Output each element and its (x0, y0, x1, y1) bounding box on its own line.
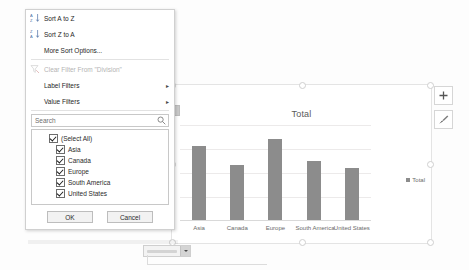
menu-button-row: OK Cancel (26, 208, 174, 229)
menu-separator (31, 110, 169, 111)
filter-checklist-item[interactable]: Canada (32, 155, 168, 166)
menu-item-label: More Sort Options... (44, 47, 169, 54)
chart-elements-button[interactable] (434, 86, 453, 105)
svg-text:A: A (30, 34, 33, 39)
sort-ascending-icon: A Z (26, 13, 44, 23)
connector-line-horizontal (147, 264, 267, 265)
filter-checklist-item[interactable]: United States (32, 188, 168, 199)
legend-label-total: Total (412, 177, 425, 183)
chart-side-buttons (434, 86, 453, 129)
resize-handle-right[interactable] (427, 161, 434, 168)
checkbox-europe[interactable] (56, 167, 65, 176)
search-icon[interactable] (157, 116, 166, 126)
category-label-europe: Europe (257, 225, 293, 231)
resize-handle-top-right[interactable] (427, 82, 434, 89)
filter-checklist-label: Canada (68, 157, 91, 164)
excel-pivotchart-canvas: Total AsiaCanadaEuropeSouth AmericaUnite… (0, 0, 469, 270)
checkbox-south-america[interactable] (56, 178, 65, 187)
menu-item-label: Sort Z to A (44, 31, 169, 38)
pivot-field-label-blurred (147, 250, 177, 253)
paintbrush-icon (438, 114, 449, 125)
search-input[interactable] (31, 114, 169, 127)
submenu-arrow-icon: ▸ (166, 98, 169, 105)
filter-checklist-label: Europe (68, 168, 89, 175)
filter-value-checklist[interactable]: (Select All)AsiaCanadaEuropeSouth Americ… (31, 129, 169, 205)
category-label-asia: Asia (181, 225, 217, 231)
chart-styles-button[interactable] (434, 110, 453, 129)
ok-button[interactable]: OK (47, 211, 93, 223)
bar-wrap (335, 125, 369, 220)
chevron-down-icon[interactable] (180, 246, 190, 256)
filter-checklist-label: Asia (68, 146, 81, 153)
clear-filter-icon (26, 64, 44, 74)
filter-checklist-label: United States (68, 190, 107, 197)
menu-item-sort-z-to-a[interactable]: Z A Sort Z to A (26, 26, 174, 42)
checkbox-united-states[interactable] (56, 189, 65, 198)
menu-item-clear-filter: Clear Filter From "Division" (26, 61, 174, 77)
search-field-wrap (31, 114, 169, 127)
chart-plot-area (180, 125, 371, 221)
resize-handle-bottom[interactable] (299, 239, 306, 246)
resize-handle-top[interactable] (299, 82, 306, 89)
filter-checklist-label: (Select All) (61, 135, 92, 142)
menu-item-value-filters[interactable]: Value Filters ▸ (26, 93, 174, 109)
checkbox-canada[interactable] (56, 156, 65, 165)
bar-europe[interactable] (268, 139, 282, 220)
chart-title: Total (172, 109, 431, 119)
plus-icon (438, 90, 449, 101)
filter-checklist-item[interactable]: Europe (32, 166, 168, 177)
menu-separator (31, 59, 169, 60)
bar-wrap (182, 125, 216, 220)
pivot-field-filter-control[interactable] (143, 245, 191, 257)
filter-checklist-item[interactable]: (Select All) (32, 133, 168, 144)
menu-item-label-filters[interactable]: Label Filters ▸ (26, 77, 174, 93)
cancel-button[interactable]: Cancel (107, 211, 153, 223)
svg-text:Z: Z (30, 18, 33, 23)
submenu-arrow-icon: ▸ (166, 82, 169, 89)
bar-wrap (220, 125, 254, 220)
bar-wrap (258, 125, 292, 220)
bar-south-america[interactable] (307, 161, 321, 220)
bar-asia[interactable] (192, 146, 206, 220)
menu-item-label: Sort A to Z (44, 15, 169, 22)
pivot-chart-object[interactable]: Total AsiaCanadaEuropeSouth AmericaUnite… (171, 84, 432, 244)
category-axis-labels: AsiaCanadaEuropeSouth AmericaUnited Stat… (180, 225, 371, 237)
filter-checklist-item[interactable]: Asia (32, 144, 168, 155)
checkbox-select-all[interactable] (49, 134, 58, 143)
menu-item-sort-a-to-z[interactable]: A Z Sort A to Z (26, 10, 174, 26)
menu-item-label: Label Filters (44, 82, 166, 89)
pivot-filter-dropdown-menu[interactable]: A Z Sort A to Z Z A Sort Z to A (25, 9, 175, 230)
legend-marker-total (406, 178, 410, 182)
menu-drop-shadow (28, 240, 178, 244)
menu-item-label: Value Filters (44, 98, 166, 105)
bar-canada[interactable] (230, 165, 244, 220)
resize-handle-bottom-right[interactable] (427, 239, 434, 246)
filter-checklist-label: South America (68, 179, 110, 186)
sort-descending-icon: Z A (26, 29, 44, 39)
category-label-united-states: United States (334, 225, 370, 231)
category-label-canada: Canada (219, 225, 255, 231)
menu-item-more-sort-options[interactable]: More Sort Options... (26, 42, 174, 58)
bar-united-states[interactable] (345, 168, 359, 220)
category-axis-line (180, 220, 371, 221)
bar-series-total[interactable] (180, 125, 371, 220)
bar-wrap (296, 125, 330, 220)
chart-legend[interactable]: Total (406, 177, 425, 183)
menu-item-label: Clear Filter From "Division" (44, 66, 169, 73)
category-label-south-america: South America (296, 225, 332, 231)
filter-checklist-item[interactable]: South America (32, 177, 168, 188)
checkbox-asia[interactable] (56, 145, 65, 154)
